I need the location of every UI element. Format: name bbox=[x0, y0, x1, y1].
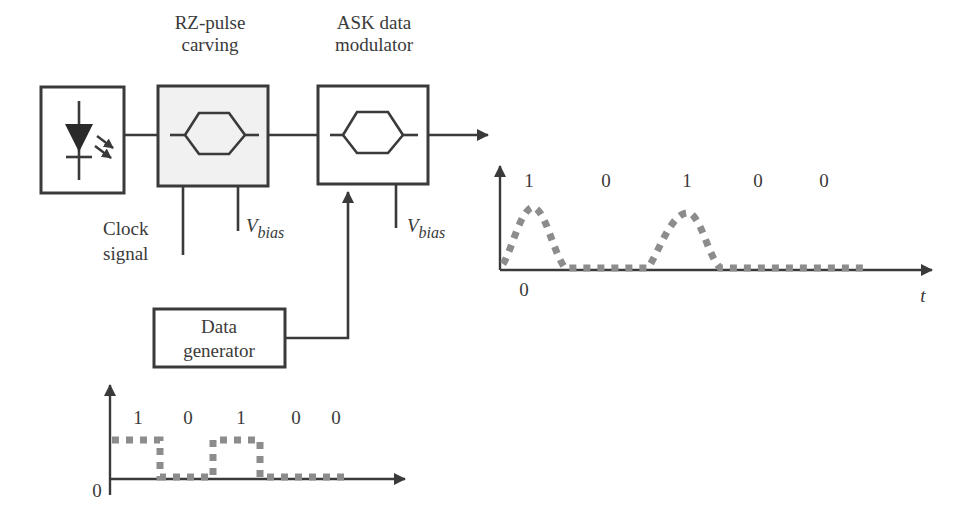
origin-label: 0 bbox=[92, 480, 102, 501]
time-axis-label: t bbox=[920, 285, 926, 306]
bit-label: 1 bbox=[133, 407, 143, 428]
rz-carver-label-line2: carving bbox=[182, 34, 239, 55]
ask-modulator-label-line2: modulator bbox=[335, 34, 414, 55]
origin-label: 0 bbox=[519, 279, 529, 300]
bit-label: 0 bbox=[183, 407, 193, 428]
bit-label: 1 bbox=[682, 170, 692, 191]
nrz-data-waveform bbox=[112, 440, 348, 477]
input-nrz-data-plot: 1 0 1 0 0 0 bbox=[92, 385, 405, 501]
bit-label: 0 bbox=[291, 407, 301, 428]
data-generator-label-line1: Data bbox=[201, 316, 237, 337]
bit-label: 1 bbox=[236, 407, 246, 428]
transmitter-diagram: RZ-pulse carving Clock signal Vbias ASK … bbox=[0, 0, 965, 524]
bit-label: 0 bbox=[819, 170, 829, 191]
rz-pulse-waveform bbox=[503, 207, 866, 268]
output-rz-signal-plot: 1 0 1 0 0 0 t bbox=[500, 166, 932, 306]
clock-signal-label-line2: signal bbox=[103, 243, 148, 264]
bit-label: 0 bbox=[753, 170, 763, 191]
ask-modulator-block: ASK data modulator bbox=[318, 12, 428, 228]
bit-label: 1 bbox=[524, 170, 534, 191]
bit-label: 0 bbox=[601, 170, 611, 191]
laser-source-block bbox=[41, 87, 124, 193]
data-generator-label-line2: generator bbox=[183, 340, 255, 361]
rz-carver-label-line1: RZ-pulse bbox=[175, 12, 246, 33]
data-signal-arrow bbox=[285, 192, 348, 338]
ask-modulator-label-line1: ASK data bbox=[337, 12, 412, 33]
bit-label: 0 bbox=[331, 407, 341, 428]
data-generator-block: Data generator bbox=[154, 309, 285, 367]
vbias-label-2: Vbias bbox=[407, 215, 445, 241]
clock-signal-label-line1: Clock bbox=[103, 218, 149, 239]
vbias-label-1: Vbias bbox=[246, 215, 284, 241]
